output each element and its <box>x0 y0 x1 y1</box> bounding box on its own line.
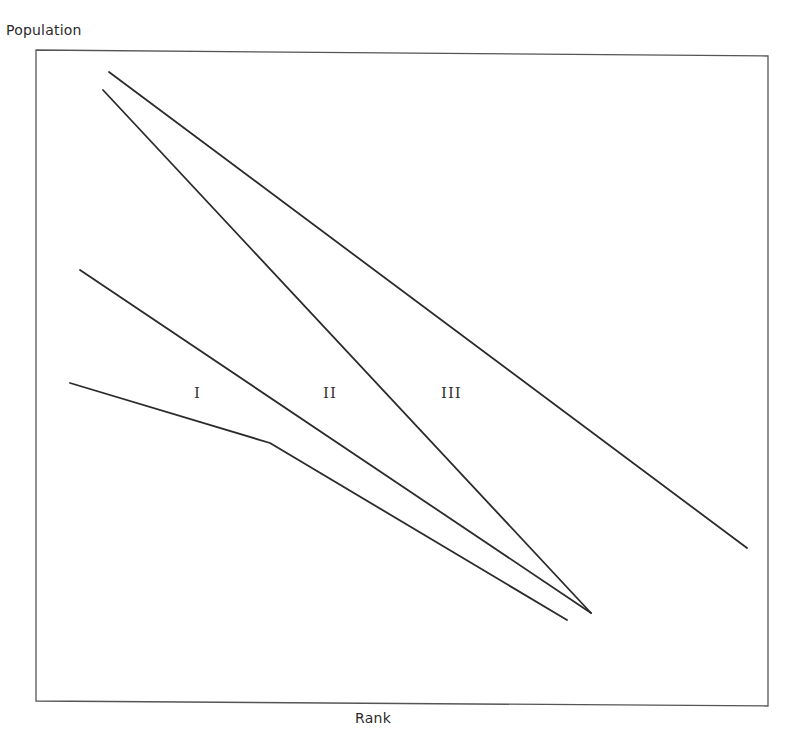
series-line-1 <box>109 72 747 548</box>
y-axis-label: Population <box>6 22 82 38</box>
chart-canvas <box>0 0 789 741</box>
region-label-1: I <box>194 384 201 402</box>
series-line-4 <box>70 383 567 620</box>
series-line-3 <box>80 270 591 613</box>
region-label-3: III <box>441 384 462 402</box>
series-group <box>70 72 747 620</box>
series-line-2 <box>103 90 591 613</box>
region-label-2: II <box>323 384 337 402</box>
x-axis-label: Rank <box>355 710 391 726</box>
plot-frame <box>36 50 768 706</box>
